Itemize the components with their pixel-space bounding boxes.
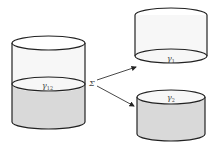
arrow-to-bottom-right [97, 86, 134, 106]
sigma-operator-label: Σ [88, 79, 95, 88]
top-right-cylinder: γ1 [135, 8, 207, 64]
left-cylinder: γ12 [12, 36, 85, 129]
arrow-to-top-right [97, 67, 136, 80]
diagram-canvas: γ12 Σ γ1 γ2 [0, 0, 221, 151]
bottom-right-cylinder: γ2 [137, 90, 205, 141]
left-cylinder-top-ellipse [12, 36, 85, 50]
